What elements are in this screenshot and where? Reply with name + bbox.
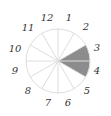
label-3: 3	[94, 42, 100, 53]
label-7: 7	[45, 97, 52, 108]
label-8: 8	[25, 85, 31, 96]
label-10: 10	[9, 43, 22, 54]
clock-diagram: 1 2 3 4 5 6 7 8 9 10 11 12	[0, 0, 111, 116]
label-9: 9	[12, 65, 19, 76]
label-12: 12	[41, 12, 54, 23]
label-2: 2	[82, 21, 89, 32]
label-5: 5	[84, 85, 90, 96]
label-1: 1	[66, 12, 72, 23]
label-6: 6	[65, 97, 72, 108]
label-4: 4	[93, 65, 100, 76]
label-11: 11	[22, 22, 35, 33]
